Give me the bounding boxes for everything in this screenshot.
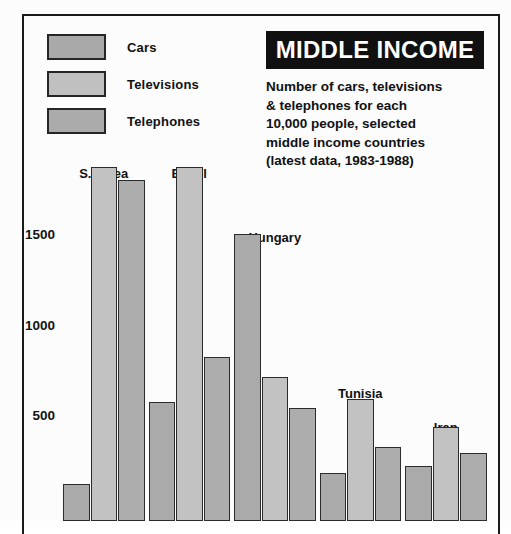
bar-televisions-skorea — [91, 167, 118, 521]
bar-telephones-skorea — [118, 180, 145, 521]
bar-televisions-brazil — [176, 167, 203, 521]
bar-cars-tunisia — [320, 473, 347, 521]
bar-group: Brazil — [149, 14, 231, 521]
bar-group: Iran — [405, 14, 487, 521]
bar-telephones-iran — [460, 453, 487, 521]
bar-cars-hungary — [234, 234, 261, 521]
y-axis-tick-1000: 1000 — [25, 317, 55, 332]
bar-televisions-iran — [433, 427, 460, 521]
bar-televisions-hungary — [262, 377, 289, 521]
bar-cars-iran — [405, 466, 432, 521]
bar-group: Hungary — [234, 14, 316, 521]
y-axis-tick-1500: 1500 — [25, 227, 55, 242]
bar-telephones-hungary — [289, 408, 316, 521]
bar-televisions-tunisia — [347, 399, 374, 521]
y-axis-tick-500: 500 — [32, 407, 55, 422]
plot-area: 50010001500S.KoreaBrazilHungaryTunisiaIr… — [63, 14, 500, 521]
bar-group: S.Korea — [63, 14, 145, 521]
bar-cars-skorea — [63, 484, 90, 521]
bar-group: Tunisia — [320, 14, 402, 521]
bar-telephones-brazil — [204, 357, 231, 521]
bar-telephones-tunisia — [375, 447, 402, 521]
bar-cars-brazil — [149, 402, 176, 521]
